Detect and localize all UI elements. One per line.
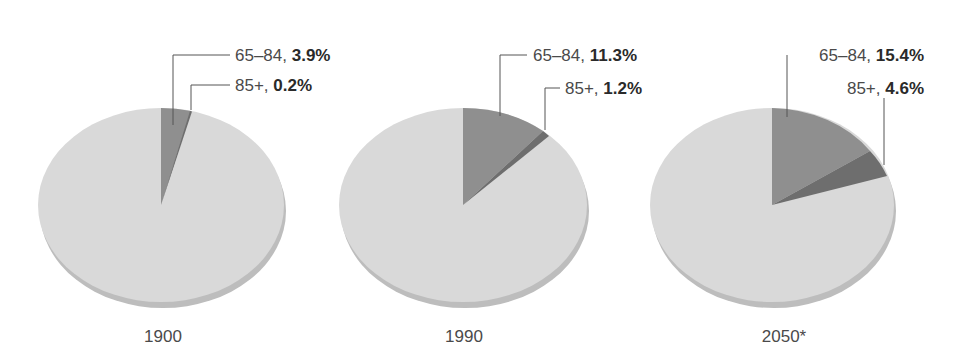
label-65-84: 65–84, 3.9%	[235, 46, 330, 65]
label-85-plus: 85+, 4.6%	[847, 79, 924, 98]
pie-2050: 65–84, 15.4% 85+, 4.6% 2050*	[650, 46, 924, 346]
leader-line	[500, 55, 527, 116]
year-label: 1990	[445, 327, 483, 346]
leader-line	[545, 88, 560, 130]
label-85-plus: 85+, 1.2%	[565, 79, 642, 98]
label-65-84: 65–84, 15.4%	[819, 46, 924, 65]
pie-1990: 65–84, 11.3% 85+, 1.2% 1990	[339, 46, 642, 346]
leader-line	[191, 85, 230, 110]
label-65-84: 65–84, 11.3%	[533, 46, 637, 65]
pie-1900: 65–84, 3.9% 85+, 0.2% 1900	[38, 46, 330, 346]
year-label: 1900	[144, 327, 182, 346]
label-85-plus: 85+, 0.2%	[235, 76, 312, 95]
pie-charts: 65–84, 3.9% 85+, 0.2% 1900 65–84, 11.3% …	[0, 0, 967, 347]
year-label: 2050*	[762, 327, 807, 346]
